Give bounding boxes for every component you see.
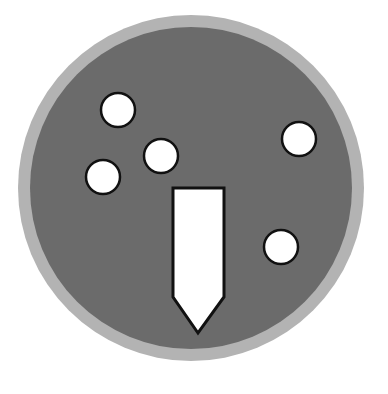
dot-icon: [86, 160, 120, 194]
dot-icon: [264, 230, 298, 264]
dot-icon: [144, 139, 178, 173]
dot-icon: [101, 93, 135, 127]
dish-diagram: [0, 0, 388, 394]
dot-icon: [282, 122, 316, 156]
